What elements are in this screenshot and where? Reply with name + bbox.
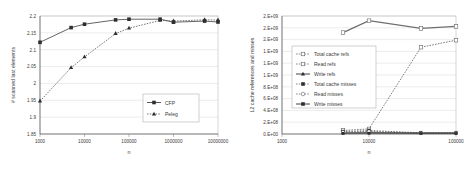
left-y-axis-title: # scanned last elements [10, 47, 16, 103]
y-tick: 1.85 [27, 132, 36, 137]
left-x-axis-title: n [128, 149, 131, 155]
series-cfp [38, 17, 220, 44]
legend-label: Write refs [314, 71, 336, 77]
y-tick: 2.2 [30, 14, 37, 19]
right-x-axis-title: n [368, 149, 371, 155]
legend-label: CFP [165, 100, 176, 106]
right-chart-figure: 2.E+09 2.E+09 2.E+09 1.E+09 1.E+09 1.E+0… [234, 0, 468, 172]
y-tick: 1.E+09 [263, 73, 278, 78]
right-y-axis-title: L2 cache references and misses [249, 37, 255, 112]
x-tick: 10000 [363, 139, 376, 144]
legend-marker-square-icon [301, 82, 305, 86]
x-tick: 10000000 [208, 139, 229, 144]
right-x-tick-labels: 1000 10000 100000 [277, 139, 464, 144]
left-chart-figure: 2.2 2.15 2.1 2.05 2 1.95 1.9 1.85 1000 [0, 0, 234, 172]
legend-marker-open-square-icon [301, 52, 305, 56]
left-y-tick-labels: 2.2 2.15 2.1 2.05 2 1.95 1.9 1.85 [27, 14, 36, 137]
y-tick: 4.E+08 [263, 108, 278, 113]
right-chart-svg: 2.E+09 2.E+09 2.E+09 1.E+09 1.E+09 1.E+0… [234, 0, 468, 172]
x-tick: 1000 [277, 139, 288, 144]
y-tick: 2.E+09 [263, 14, 278, 19]
x-tick: 1000000 [165, 139, 183, 144]
legend-box [143, 94, 199, 122]
y-tick: 8.E+08 [263, 85, 278, 90]
legend-marker-open-circle-icon [301, 92, 305, 96]
legend-label: Read misses [314, 91, 343, 97]
legend-label: Total cache misses [314, 81, 357, 87]
y-tick: 1.95 [27, 98, 36, 103]
legend-label: Peleg [165, 111, 178, 117]
y-tick: 2.1 [30, 48, 37, 53]
y-tick: 1.E+09 [263, 49, 278, 54]
y-tick: 0.E+00 [263, 132, 278, 137]
y-tick: 2 [33, 81, 36, 86]
legend-marker-square-icon [152, 101, 156, 105]
left-chart-legend[interactable]: CFP Peleg [143, 94, 199, 122]
y-tick: 1.9 [30, 115, 37, 120]
y-tick: 2.E+09 [263, 26, 278, 31]
right-chart-legend[interactable]: Total cache refs Read refs Write refs To… [292, 46, 376, 108]
y-tick: 2.15 [27, 31, 36, 36]
y-tick: 6.E+08 [263, 96, 278, 101]
y-tick: 2.E+09 [263, 37, 278, 42]
left-x-tick-labels: 1000 10000 100000 1000000 10000000 [35, 139, 229, 144]
x-tick: 10000 [78, 139, 91, 144]
x-tick: 1000 [35, 139, 46, 144]
y-tick: 2.E+08 [263, 120, 278, 125]
x-tick: 100000 [448, 139, 464, 144]
left-chart-svg: 2.2 2.15 2.1 2.05 2 1.95 1.9 1.85 1000 [0, 0, 234, 172]
legend-marker-square-icon [301, 102, 305, 106]
legend-label: Total cache refs [314, 51, 350, 57]
right-y-tick-labels: 2.E+09 2.E+09 2.E+09 1.E+09 1.E+09 1.E+0… [263, 14, 278, 137]
legend-label: Read refs [314, 61, 336, 67]
left-x-tickmarks [40, 134, 218, 137]
legend-label: Write misses [314, 101, 343, 107]
legend-marker-open-square-icon [301, 62, 305, 66]
y-tick: 1.E+09 [263, 61, 278, 66]
series-total-cache-refs [341, 19, 458, 34]
figure-row: 2.2 2.15 2.1 2.05 2 1.95 1.9 1.85 1000 [0, 0, 468, 172]
y-tick: 2.05 [27, 64, 36, 69]
x-tick: 100000 [121, 139, 137, 144]
